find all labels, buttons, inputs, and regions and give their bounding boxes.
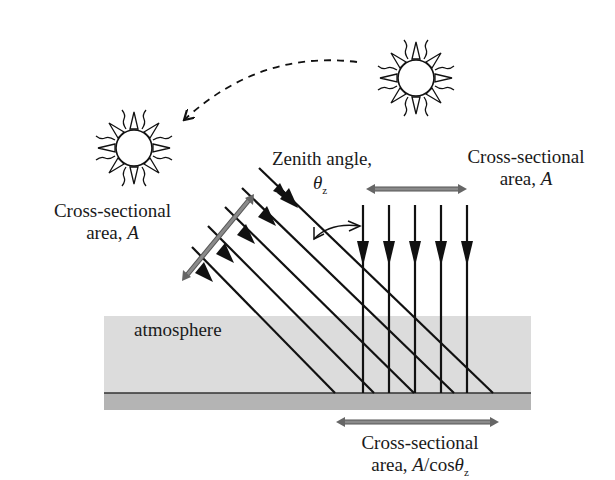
sun-overhead-icon (378, 40, 454, 116)
area-variable: A (541, 168, 553, 189)
bottom-cross-section-label: Cross-sectional area, A/cosθz (340, 432, 500, 480)
zenith-angle-text: Zenith angle, (272, 148, 372, 169)
top-cross-section-title: Cross-sectional (446, 146, 606, 168)
sun-path-dashed-arrow (184, 60, 357, 120)
atmosphere-text: atmosphere (134, 319, 222, 340)
zenith-symbol-label: θz (300, 172, 340, 201)
bottom-cross-section-title: Cross-sectional (340, 432, 500, 454)
area-text: area, (500, 168, 541, 189)
vertical-ray-arrowheads (357, 241, 473, 266)
bottom-cross-section-area: area, A/cosθz (340, 454, 500, 480)
top-cross-section-area: area, A (446, 168, 606, 190)
theta-symbol: θ (313, 172, 322, 193)
top-cross-section-label: Cross-sectional area, A (446, 146, 606, 190)
area-variable: A (412, 454, 424, 475)
bottom-area-arrow (336, 417, 499, 427)
area-text: area, (371, 454, 412, 475)
ground-surface (104, 393, 531, 410)
theta-symbol: θ (455, 454, 464, 475)
cos-text: /cos (424, 454, 455, 475)
left-cross-section-label: Cross-sectional area, A (30, 200, 195, 244)
area-variable: A (127, 222, 139, 243)
theta-subscript: z (322, 184, 327, 196)
sun-low-icon (96, 110, 172, 186)
zenith-angle-label: Zenith angle, (252, 148, 392, 170)
left-cross-section-area: area, A (30, 222, 195, 244)
atmosphere-label: atmosphere (134, 319, 244, 341)
left-cross-section-title: Cross-sectional (30, 200, 195, 222)
theta-subscript: z (464, 466, 469, 478)
area-text: area, (86, 222, 127, 243)
